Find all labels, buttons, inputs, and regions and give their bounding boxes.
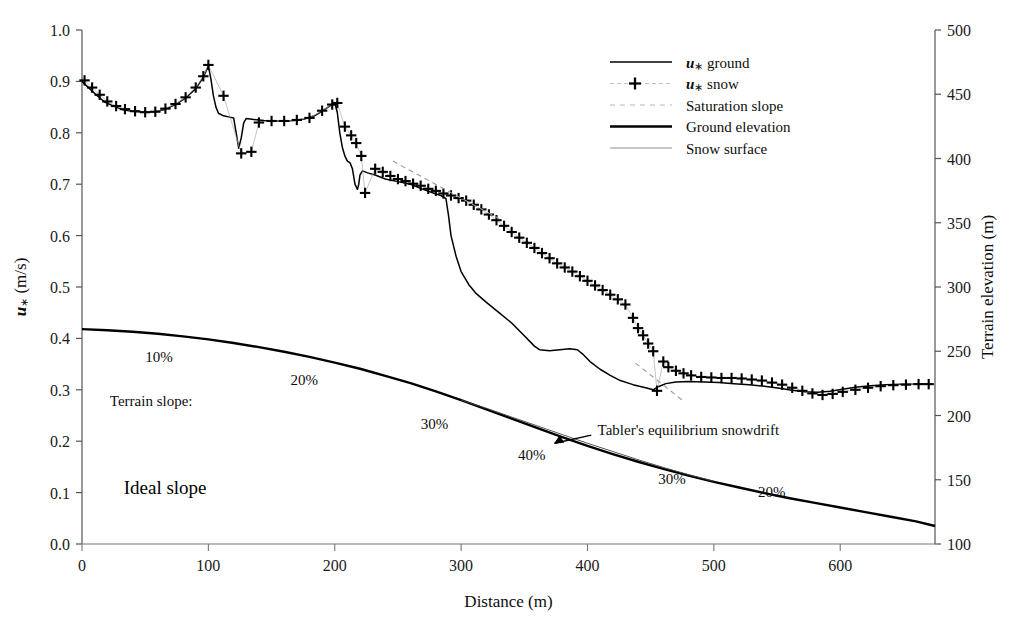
y-tick-label: 0.6: [50, 228, 70, 245]
x-tick-label: 0: [78, 557, 86, 574]
figure-container: 0.00.10.20.30.40.50.60.70.80.91.01001502…: [0, 0, 1011, 633]
legend-label: Ground elevation: [686, 119, 791, 135]
y-tick-label: 0.4: [50, 330, 70, 347]
snowdrift-chart: 0.00.10.20.30.40.50.60.70.80.91.01001502…: [0, 0, 1011, 633]
legend-swatch-plus-marker: [610, 78, 672, 90]
y2-tick-label: 500: [947, 22, 971, 39]
y-tick-label: 0.1: [50, 485, 70, 502]
x-tick-label: 400: [575, 557, 599, 574]
legend-item[interactable]: u∗ ground: [610, 55, 750, 72]
svg-text:Terrain elevation (m): Terrain elevation (m): [978, 215, 997, 359]
series-u-snow: [79, 60, 934, 400]
legend-item[interactable]: Snow surface: [610, 141, 768, 157]
x-axis-title: Distance (m): [464, 592, 552, 611]
y2-axis-title: Terrain elevation (m): [978, 215, 997, 359]
legend-label: u∗ ground: [686, 55, 750, 72]
y-tick-label: 0.0: [50, 536, 70, 553]
annotation-label: 20%: [291, 372, 319, 388]
data-series: [79, 60, 935, 526]
y2-tick-label: 250: [947, 343, 971, 360]
y-axis-title: u∗ (m/s): [11, 258, 30, 317]
x-tick-label: 100: [196, 557, 220, 574]
annotation-label: Terrain slope:: [110, 393, 193, 409]
legend-item[interactable]: u∗ snow: [610, 76, 739, 93]
y-tick-label: 0.9: [50, 73, 70, 90]
svg-text:u∗ (m/s): u∗ (m/s): [11, 258, 30, 317]
annotation-label: 30%: [421, 416, 449, 432]
x-tick-label: 600: [828, 557, 852, 574]
y2-tick-label: 350: [947, 215, 971, 232]
y-tick-label: 0.7: [50, 176, 70, 193]
y-tick-label: 1.0: [50, 22, 70, 39]
annotation-label: Tabler's equilibrium snowdrift: [598, 422, 780, 438]
y2-tick-label: 450: [947, 86, 971, 103]
legend-label: u∗ snow: [686, 76, 739, 93]
annotation-label: 10%: [145, 349, 173, 365]
legend-label: Snow surface: [686, 141, 768, 157]
chart-legend: u∗ groundu∗ snowSaturation slopeGround e…: [610, 55, 791, 157]
series-u-ground: [82, 66, 931, 392]
y-tick-label: 0.2: [50, 433, 70, 450]
x-tick-label: 300: [449, 557, 473, 574]
legend-label: Saturation slope: [686, 98, 783, 114]
series-saturation-slope: [393, 161, 684, 401]
y2-tick-label: 200: [947, 408, 971, 425]
y2-tick-label: 150: [947, 472, 971, 489]
legend-item[interactable]: Saturation slope: [610, 98, 783, 114]
annotation-label: Ideal slope: [124, 477, 207, 498]
series-ground-elevation: [82, 329, 935, 526]
y-tick-label: 0.3: [50, 382, 70, 399]
y2-tick-label: 300: [947, 279, 971, 296]
y2-tick-label: 400: [947, 151, 971, 168]
x-tick-label: 500: [702, 557, 726, 574]
annotation-label: 40%: [518, 447, 546, 463]
y2-tick-label: 100: [947, 536, 971, 553]
annotation-label: 30%: [658, 471, 686, 487]
x-tick-label: 200: [323, 557, 347, 574]
y-tick-label: 0.8: [50, 125, 70, 142]
y-tick-label: 0.5: [50, 279, 70, 296]
series-snow-surface: [461, 400, 714, 481]
annotation-label: 20%: [758, 484, 786, 500]
legend-item[interactable]: Ground elevation: [610, 119, 791, 135]
